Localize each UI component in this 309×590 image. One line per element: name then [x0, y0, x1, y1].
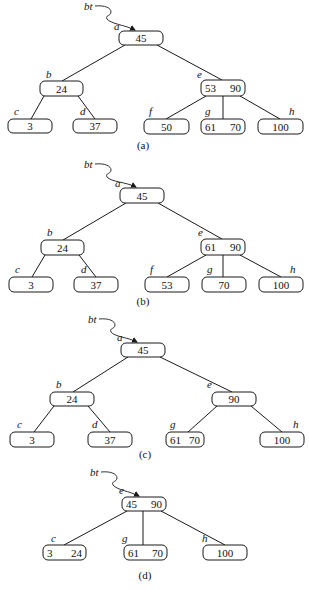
tree-node-e: 4590e [119, 484, 166, 511]
root-pointer-label: bt [84, 0, 94, 12]
node-name-label: e [198, 226, 203, 238]
node-key: 3 [28, 279, 34, 291]
tree-node-d: 37d [74, 263, 118, 292]
node-name-label: h [289, 105, 295, 117]
node-key: 24 [56, 83, 68, 95]
tree-edge [188, 406, 217, 432]
node-key: 61 [170, 434, 181, 446]
node-key: 45 [126, 498, 138, 510]
node-key: 90 [230, 241, 242, 253]
tree-edge [62, 45, 125, 81]
node-key: 37 [105, 434, 117, 446]
node-key: 3 [29, 434, 35, 446]
node-name-label: b [46, 68, 52, 80]
node-key: 3 [27, 120, 33, 132]
node-name-label: e [197, 68, 202, 80]
node-key: 90 [151, 498, 163, 510]
node-key: 70 [219, 279, 231, 291]
node-key: 61 [205, 241, 216, 253]
node-key: 50 [161, 121, 173, 133]
tree-node-g: 6170g [122, 532, 167, 560]
node-key: 70 [189, 434, 201, 446]
tree-node-h: 100h [259, 263, 303, 292]
panel-caption: (b) [137, 295, 150, 308]
tree-edge [63, 203, 126, 240]
node-name-label: e [119, 484, 124, 496]
node-name-label: d [92, 418, 98, 430]
tree-edge [160, 357, 232, 392]
tree-node-b: 24b [41, 226, 84, 255]
node-key: 70 [152, 547, 164, 559]
tree-edge [158, 203, 222, 239]
node-key: 45 [138, 344, 150, 356]
node-key: 100 [274, 434, 291, 446]
tree-node-a: 45a [117, 331, 165, 357]
node-name-label: d [80, 105, 86, 117]
node-name-label: c [15, 263, 20, 275]
tree-node-f: 53f [145, 263, 189, 292]
node-name-label: g [205, 105, 211, 117]
tree-node-c: 3c [8, 105, 52, 133]
node-name-label: a [117, 331, 123, 343]
node-name-label: c [14, 105, 19, 117]
tree-node-d: 37d [73, 105, 117, 133]
node-key: 3 [47, 547, 53, 559]
tree-node-a: 45a [115, 177, 164, 203]
tree-edge [64, 511, 127, 545]
node-key: 90 [229, 393, 241, 405]
node-name-label: g [207, 263, 213, 275]
tree-node-d: 37d [88, 418, 132, 447]
panel-b: bt45a24b3c37d6190e53f70g100h(b) [9, 158, 303, 308]
tree-edge [166, 96, 206, 119]
panel-caption: (c) [139, 448, 152, 461]
node-name-label: g [170, 418, 176, 430]
node-key: 24 [67, 393, 79, 405]
node-name-label: h [293, 418, 299, 430]
panel-caption: (a) [137, 139, 150, 152]
node-key: 53 [205, 82, 217, 94]
node-name-label: c [17, 418, 22, 430]
node-name-label: e [207, 378, 212, 390]
node-key: 61 [128, 547, 139, 559]
tree-node-a: 45a [114, 20, 163, 45]
node-key: 24 [57, 242, 69, 254]
tree-edge [34, 406, 54, 432]
tree-node-h: 100h [260, 418, 304, 447]
node-key: 100 [272, 121, 289, 133]
panel-caption: (d) [139, 569, 152, 582]
tree-edge [157, 45, 222, 80]
node-key: 45 [137, 190, 149, 202]
tree-node-e: 90e [207, 378, 256, 406]
tree-edge [251, 406, 282, 432]
tree-node-c: 3c [9, 263, 53, 292]
node-name-label: f [149, 105, 154, 117]
node-key: 70 [230, 121, 242, 133]
tree-edge [31, 96, 44, 119]
node-name-label: c [51, 532, 56, 544]
root-pointer-label: bt [90, 466, 100, 478]
node-key: 53 [162, 279, 174, 291]
node-key: 24 [71, 547, 83, 559]
node-name-label: h [290, 263, 296, 275]
tree-edge [32, 255, 45, 277]
figure-panels: bt45a24b3c37d5390e50f6170g100h(a)bt45a24… [8, 0, 304, 582]
node-key: 90 [230, 82, 242, 94]
panel-c: bt45a24b3c37d90e6170g100h(c) [10, 313, 304, 461]
panel-a: bt45a24b3c37d5390e50f6170g100h(a) [8, 0, 303, 152]
root-pointer-label: bt [84, 158, 94, 170]
tree-node-e: 6190e [198, 226, 245, 255]
node-key: 45 [136, 32, 148, 44]
node-name-label: b [47, 226, 53, 238]
node-key: 37 [90, 120, 102, 132]
node-key: 100 [217, 547, 234, 559]
tree-node-b: 24b [50, 378, 94, 406]
node-name-label: b [56, 378, 62, 390]
tree-node-c: 3c [10, 418, 54, 447]
b-tree-deletion-figure: bt45a24b3c37d5390e50f6170g100h(a)bt45a24… [0, 0, 309, 590]
node-key: 100 [273, 279, 290, 291]
panel-d: bt4590e324c6170g100h(d) [43, 466, 247, 582]
node-name-label: f [150, 263, 155, 275]
tree-edge [240, 255, 281, 277]
tree-node-g: 70g [202, 263, 246, 292]
tree-edge [161, 511, 225, 545]
